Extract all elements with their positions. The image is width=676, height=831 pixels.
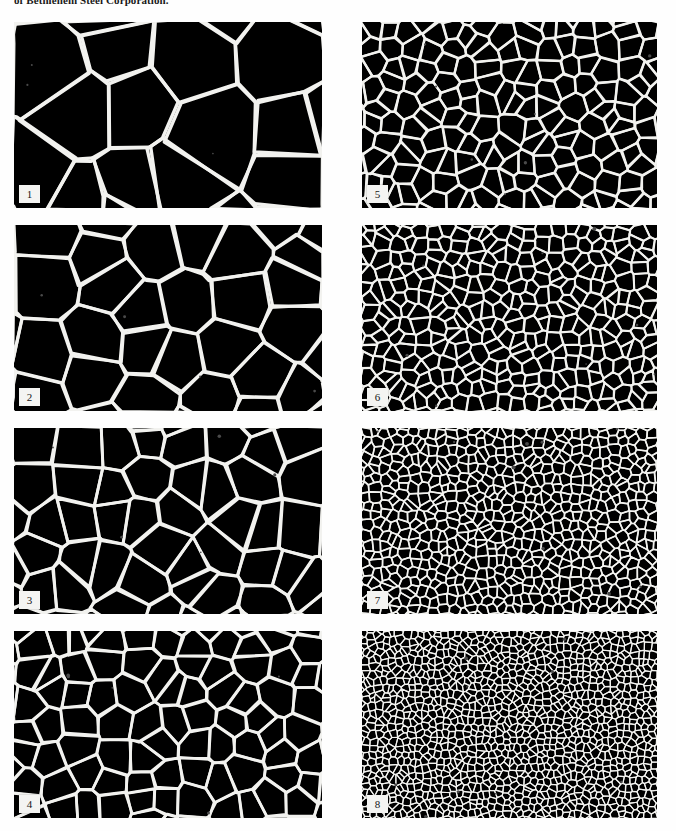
grain-cell (588, 613, 600, 614)
grain-cell (440, 742, 448, 750)
grain-cell (53, 562, 95, 613)
inclusion-speck (120, 536, 123, 539)
grain-cell (374, 312, 390, 329)
grain-boundary-network (14, 22, 322, 208)
grain-boundaries (362, 631, 657, 818)
grain-cell (541, 22, 556, 39)
inclusion-speck (534, 113, 536, 115)
inclusion-speck (464, 656, 468, 660)
inclusion-speck (648, 54, 651, 57)
grain-cell (601, 812, 611, 818)
grain-cell (541, 750, 547, 756)
grain-cell (656, 439, 657, 449)
grain-cell (436, 707, 444, 717)
grain-cell (571, 539, 582, 552)
grain-cell (638, 381, 657, 393)
inclusion-speck (512, 465, 516, 469)
inclusion-speck (551, 670, 554, 673)
grain-cell (650, 195, 657, 208)
grain-cell (635, 492, 646, 501)
grain-cell (391, 204, 417, 208)
grain-cell (286, 786, 318, 816)
grain-cell (441, 407, 455, 411)
document-page: of Bethlehem Steel Corporation. 12345678 (0, 0, 676, 831)
grain-cell (207, 498, 259, 552)
inclusion-speck (466, 686, 468, 688)
grain-cell (76, 790, 100, 818)
grain-cell (477, 814, 485, 818)
inclusion-speck (525, 442, 529, 446)
grain-cell (513, 636, 521, 644)
grain-cell (449, 749, 457, 758)
grain-cell (520, 291, 536, 303)
plate-number-label-7: 7 (367, 591, 388, 609)
grain-cell (594, 691, 603, 699)
grain-cell (288, 816, 316, 818)
inclusion-speck (592, 227, 596, 231)
inclusion-speck (31, 64, 33, 66)
grain-cell (592, 645, 603, 655)
grain-cell (554, 189, 582, 208)
grain-cell (362, 451, 372, 465)
grain-boundary-network (362, 225, 657, 411)
grain-cell (636, 812, 644, 818)
grain-cell (615, 612, 627, 614)
grain-cell (579, 602, 588, 614)
grain-cell (532, 271, 550, 287)
running-caption: of Bethlehem Steel Corporation. (14, 0, 414, 6)
grain-cell (600, 730, 609, 738)
inclusion-speck (524, 161, 527, 164)
grain-cell (319, 505, 322, 560)
grain-cell (563, 643, 571, 651)
plate-number-label-5: 5 (367, 185, 388, 203)
grain-cell (549, 688, 559, 696)
grain-boundary-network (362, 22, 657, 208)
grain-cell (207, 792, 242, 818)
grain-cell (524, 394, 540, 411)
grain-cell (547, 710, 556, 718)
grain-cell (625, 817, 631, 818)
grain-cell (435, 662, 444, 670)
grain-cell (14, 410, 15, 411)
grain-cell (381, 491, 395, 501)
grain-cell (523, 229, 536, 240)
grain-cell (534, 286, 549, 305)
inclusion-speck (218, 435, 222, 439)
grain-cell (14, 532, 63, 575)
grain-cell (97, 704, 133, 740)
grain-plate-2: 2 (14, 225, 322, 411)
grain-cell (470, 792, 479, 800)
grain-cell (379, 405, 391, 411)
grain-cell (502, 678, 510, 684)
grain-cell (129, 808, 165, 818)
grain-cell (452, 366, 466, 385)
grain-cell (299, 592, 322, 614)
grain-cell (298, 225, 322, 251)
inclusion-speck (541, 441, 544, 444)
grain-cell (592, 479, 602, 490)
grain-cell (379, 303, 396, 320)
plate-number-label-1: 1 (19, 185, 40, 203)
inclusion-speck (424, 815, 427, 818)
grain-cell (423, 648, 429, 656)
grain-plate-4: 4 (14, 631, 322, 818)
grain-cell (224, 456, 282, 503)
grain-cell (509, 331, 526, 349)
inclusion-speck (408, 651, 410, 653)
grain-cell (600, 383, 614, 400)
inclusion-speck (654, 373, 656, 375)
grain-cell (509, 398, 525, 411)
grain-cell (14, 428, 58, 463)
grain-cell (238, 548, 283, 586)
grain-cell (400, 647, 408, 656)
grain-cell (544, 656, 552, 665)
grain-plate-6: 6 (362, 225, 657, 411)
grain-cell (655, 530, 657, 540)
grain-cell (515, 644, 523, 652)
grain-cell (543, 637, 550, 645)
grain-cell (554, 73, 576, 100)
grain-cell (14, 22, 89, 120)
grain-cell (468, 612, 476, 614)
grain-cell (436, 809, 444, 818)
grain-cell (628, 390, 643, 409)
